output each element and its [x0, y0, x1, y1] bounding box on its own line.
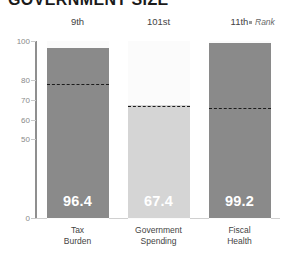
- y-axis-tick-mark: [31, 100, 36, 101]
- category-label-line1: Government: [118, 225, 199, 236]
- category-label: GovernmentSpending: [118, 225, 199, 246]
- y-axis-tick-label: 100: [0, 37, 30, 46]
- bar-slot: 67.4: [128, 41, 190, 219]
- bar-slot: 99.2: [209, 41, 271, 219]
- chart-title: GOVERNMENT SIZE: [8, 0, 169, 9]
- category-label-line2: Burden: [37, 236, 118, 247]
- y-axis-tick-mark: [31, 80, 36, 81]
- reference-line: [128, 106, 190, 107]
- rank-label-tax-burden: 9th: [37, 16, 118, 27]
- category-label-line2: Spending: [118, 236, 199, 247]
- y-axis-tick-mark: [31, 139, 36, 140]
- y-axis-spine: [35, 41, 37, 219]
- rank-legend-marker-icon: [249, 21, 252, 24]
- bar-slot: 96.4: [47, 41, 109, 219]
- plot-area: 100807060500 96.467.499.2: [37, 41, 280, 219]
- category-label: FiscalHealth: [199, 225, 280, 246]
- rank-row: 9th 101st 11th Rank: [0, 16, 285, 30]
- rank-legend-label: Rank: [255, 17, 275, 27]
- bar[interactable]: 96.4: [47, 48, 109, 218]
- y-axis-tick-mark: [31, 120, 36, 121]
- category-label: TaxBurden: [37, 225, 118, 246]
- y-axis-tick-mark: [31, 218, 36, 219]
- category-labels: TaxBurdenGovernmentSpendingFiscalHealth: [37, 225, 280, 255]
- rank-legend: Rank: [249, 17, 275, 27]
- y-axis-tick-label: 60: [0, 116, 30, 125]
- category-label-line2: Health: [199, 236, 280, 247]
- y-axis-tick-mark: [31, 41, 36, 42]
- bar-value-label: 67.4: [128, 193, 190, 209]
- bar-value-label: 96.4: [47, 193, 109, 209]
- rank-label-government-spending: 101st: [118, 16, 199, 27]
- y-axis-tick-label: 0: [0, 214, 30, 223]
- reference-line: [47, 84, 109, 85]
- y-axis-tick-label: 50: [0, 135, 30, 144]
- y-axis-tick-label: 80: [0, 76, 30, 85]
- category-label-line1: Fiscal: [199, 225, 280, 236]
- bar-value-label: 99.2: [209, 193, 271, 209]
- government-size-chart: GOVERNMENT SIZE 9th 101st 11th Rank 1008…: [0, 0, 285, 263]
- reference-line: [209, 108, 271, 109]
- bar[interactable]: 67.4: [128, 105, 190, 218]
- category-label-line1: Tax: [37, 225, 118, 236]
- bar[interactable]: 99.2: [209, 43, 271, 218]
- y-axis-tick-label: 70: [0, 96, 30, 105]
